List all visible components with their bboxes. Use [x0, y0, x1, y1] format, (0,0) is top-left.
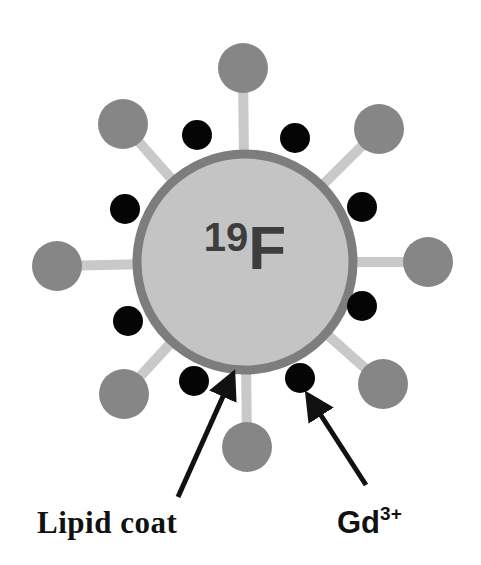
element-symbol: F [248, 213, 286, 282]
ligand-head [403, 237, 453, 287]
gd-ion [347, 192, 377, 222]
gd-charge: 3+ [380, 503, 402, 524]
ligand-head [358, 359, 408, 409]
core-label: 19F [180, 212, 310, 283]
gd-ion [110, 194, 140, 224]
ligand-head [32, 241, 82, 291]
gd-ion [113, 306, 143, 336]
ligand-head [222, 422, 272, 472]
gd-label: Gd3+ [337, 505, 402, 541]
gd-ion [182, 120, 212, 150]
gd-arrow [313, 403, 366, 485]
lipid-coat-label: Lipid coat [37, 505, 177, 541]
ligand-head [354, 104, 404, 154]
gd-ion [280, 123, 310, 153]
ligand-head [218, 43, 268, 93]
ligand-head [98, 99, 148, 149]
ligand-head [99, 369, 149, 419]
lipid-coat-arrow [178, 383, 229, 497]
gd-symbol: Gd [337, 505, 380, 540]
gd-ion [347, 291, 377, 321]
gd-ion [285, 363, 315, 393]
gd-ion [179, 366, 209, 396]
isotope-number: 19 [204, 215, 249, 259]
